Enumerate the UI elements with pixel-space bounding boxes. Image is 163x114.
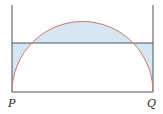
shaded-segment-top <box>12 22 153 93</box>
label-p: P <box>7 97 16 110</box>
diagram-canvas: P Q <box>0 0 163 114</box>
label-q: Q <box>147 97 156 110</box>
